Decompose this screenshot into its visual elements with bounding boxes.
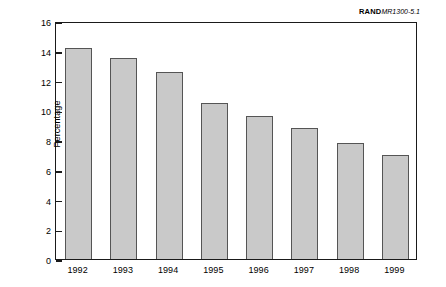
y-tick-label: 6 — [46, 166, 51, 178]
bar — [110, 58, 137, 259]
rand-brand-label: RAND — [359, 7, 381, 16]
x-axis-tick-label: 1996 — [236, 265, 281, 275]
bar — [382, 155, 409, 259]
bar — [291, 128, 318, 259]
plot-area: Percentage 0246810121416 — [55, 22, 417, 260]
y-tick-label: 12 — [41, 77, 51, 89]
bar-series — [56, 23, 416, 259]
x-axis-tick-label: 1999 — [372, 265, 417, 275]
bar — [201, 103, 228, 259]
x-axis-tick-label: 1992 — [55, 265, 100, 275]
bar — [337, 143, 364, 259]
y-tick-label: 4 — [46, 196, 51, 208]
chart-figure: RANDMR1300-5.1 Percentage 0246810121416 … — [0, 0, 446, 287]
y-tick-label: 8 — [46, 136, 51, 148]
y-tick-label: 10 — [41, 106, 51, 118]
x-axis-tick-label: 1994 — [146, 265, 191, 275]
y-tick-label: 16 — [41, 17, 51, 29]
source-credit: RANDMR1300-5.1 — [359, 7, 420, 16]
y-tick-label: 14 — [41, 47, 51, 59]
x-axis-tick-label: 1997 — [281, 265, 326, 275]
y-tick-label: 0 — [46, 255, 51, 267]
x-axis-tick-label: 1998 — [327, 265, 372, 275]
x-axis-tick-label: 1995 — [191, 265, 236, 275]
x-axis-tick-label: 1993 — [100, 265, 145, 275]
document-id-label: MR1300-5.1 — [381, 8, 420, 15]
bar — [65, 48, 92, 259]
bar — [156, 72, 183, 259]
y-tick-label: 2 — [46, 225, 51, 237]
bar — [246, 116, 273, 259]
y-tick-mark — [56, 260, 62, 262]
